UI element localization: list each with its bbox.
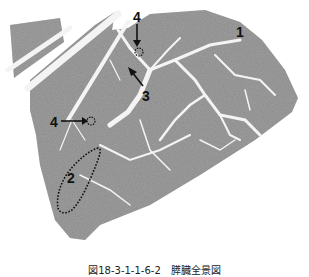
label-3: 3 (142, 89, 150, 103)
label-2: 2 (67, 171, 75, 185)
tissue-section-image (0, 0, 309, 250)
label-1: 1 (236, 25, 244, 39)
figure-caption: 図18-3-1-1-6-2 膵臓全景図 (0, 262, 309, 277)
pancreas-histology-figure: 1 2 3 4 4 (0, 0, 309, 250)
label-4-left: 4 (50, 115, 58, 129)
label-4-top: 4 (133, 10, 141, 24)
